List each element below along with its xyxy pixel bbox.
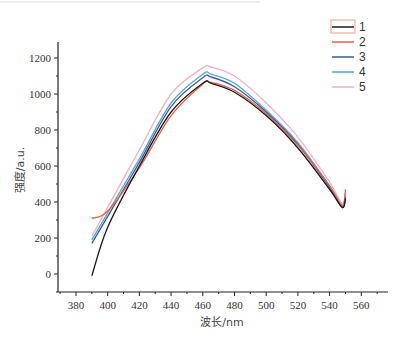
x-tick-label: 420 (131, 299, 148, 311)
x-tick-label: 480 (226, 299, 243, 311)
legend-label-2: 2 (359, 35, 366, 49)
y-tick-label: 0 (46, 268, 52, 280)
legend-label-1: 1 (359, 20, 366, 34)
y-tick-label: 1000 (29, 88, 52, 100)
y-axis-title: 强度/a.u. (13, 147, 27, 193)
y-tick-label: 400 (35, 196, 52, 208)
x-tick-label: 560 (353, 299, 370, 311)
legend-label-3: 3 (359, 50, 366, 64)
series-line-5 (92, 65, 346, 236)
x-tick-label: 500 (258, 299, 275, 311)
y-tick-label: 200 (35, 232, 52, 244)
spectrum-line-chart: 0200400600800100012003804004204404604805… (0, 0, 413, 342)
x-tick-label: 520 (290, 299, 307, 311)
y-tick-label: 1200 (29, 52, 52, 64)
x-tick-label: 380 (68, 299, 85, 311)
y-tick-label: 600 (35, 160, 52, 172)
legend-label-4: 4 (359, 65, 366, 79)
legend-label-5: 5 (359, 80, 366, 94)
x-axis-title: 波长/nm (200, 316, 243, 329)
y-tick-label: 800 (35, 124, 52, 136)
x-tick-label: 440 (163, 299, 180, 311)
x-tick-label: 400 (99, 299, 116, 311)
x-tick-label: 460 (195, 299, 212, 311)
legend: 12345 (331, 20, 366, 94)
plot-series-group (92, 65, 346, 276)
x-tick-label: 540 (321, 299, 338, 311)
